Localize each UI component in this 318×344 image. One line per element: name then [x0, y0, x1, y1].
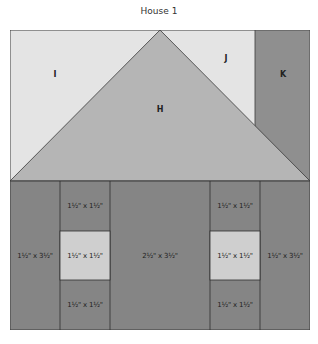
label-k: K	[280, 70, 286, 79]
dim-right-wall: 1½" x 3½"	[267, 252, 303, 260]
label-i: I	[54, 70, 57, 79]
quilt-block: I H J K 1½" x 3½" 1½" x 1½" 1½" x 1½" 1½…	[10, 30, 310, 330]
dim-left-window: 1½" x 1½"	[67, 252, 103, 260]
dim-right-window: 1½" x 1½"	[217, 252, 253, 260]
label-j: J	[225, 54, 228, 63]
dim-left-top: 1½" x 1½"	[67, 202, 103, 210]
dim-left-bottom: 1½" x 1½"	[67, 301, 103, 309]
dim-center-door: 2½" x 3½"	[142, 252, 178, 260]
diagram-title: House 1	[0, 6, 318, 16]
dim-right-bottom: 1½" x 1½"	[217, 301, 253, 309]
dim-right-top: 1½" x 1½"	[217, 202, 253, 210]
dim-left-wall: 1½" x 3½"	[17, 252, 53, 260]
label-h: H	[157, 105, 164, 114]
